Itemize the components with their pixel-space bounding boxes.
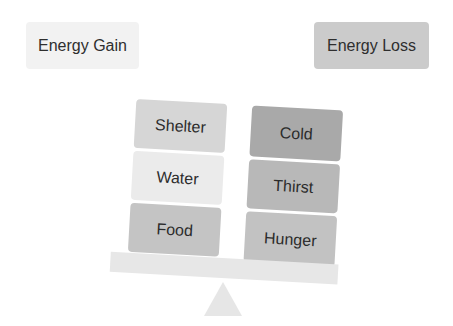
scale-tilting-assembly: Shelter Water Food Cold Thirst Hunger bbox=[0, 0, 453, 326]
balance-scale: Shelter Water Food Cold Thirst Hunger bbox=[0, 0, 453, 326]
block-water: Water bbox=[131, 151, 225, 205]
block-cold-label: Cold bbox=[279, 124, 313, 144]
block-hunger: Hunger bbox=[243, 211, 337, 267]
block-hunger-label: Hunger bbox=[264, 229, 317, 250]
block-cold: Cold bbox=[249, 105, 343, 161]
block-food: Food bbox=[128, 203, 222, 257]
block-thirst: Thirst bbox=[246, 159, 340, 213]
block-water-label: Water bbox=[156, 168, 199, 188]
block-shelter: Shelter bbox=[134, 99, 228, 153]
block-food-label: Food bbox=[156, 220, 193, 240]
block-thirst-label: Thirst bbox=[273, 176, 314, 196]
block-shelter-label: Shelter bbox=[155, 116, 207, 137]
scale-fulcrum bbox=[204, 282, 242, 316]
